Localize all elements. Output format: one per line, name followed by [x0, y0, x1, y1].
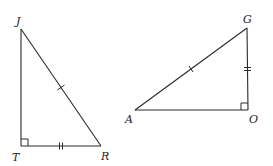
tick-mark-ag [189, 66, 193, 72]
segment-go [247, 28, 248, 110]
vertex-label-r: R [100, 150, 109, 163]
vertex-label-j: J [14, 15, 21, 28]
triangle-jtr: J T R [12, 15, 109, 164]
vertex-label-o: O [249, 113, 258, 126]
tick-mark-jr [58, 85, 65, 90]
diagram-canvas: J T R G A O [0, 0, 273, 166]
vertex-label-t: T [12, 151, 21, 164]
vertex-label-a: A [124, 113, 133, 126]
triangle-goa: G A O [124, 13, 258, 126]
vertex-label-g: G [243, 13, 252, 26]
right-angle-marker-t [21, 139, 28, 146]
right-angle-marker-o [241, 103, 248, 110]
